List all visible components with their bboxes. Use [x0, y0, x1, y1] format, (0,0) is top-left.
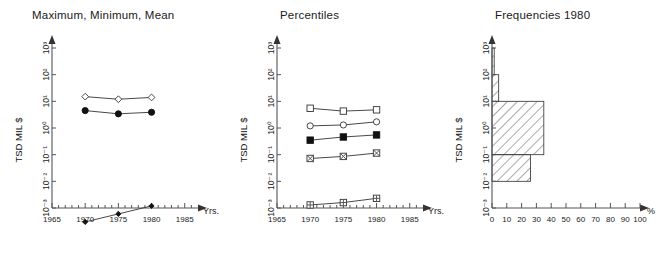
series-1: [82, 93, 155, 102]
x-axis-tick-label: 70: [591, 215, 600, 224]
y-axis-title: TSD MIL $: [453, 117, 464, 163]
y-axis-tick-label: 10³: [266, 42, 276, 54]
x-axis-tick-label: 1970: [301, 215, 319, 224]
series-1: [307, 105, 380, 114]
x-axis-tick-label: 1980: [368, 215, 386, 224]
x-axis-tick-label: 100: [633, 215, 647, 224]
data-point-marker: [82, 93, 89, 100]
series-4: [307, 150, 380, 162]
y-axis-title: TSD MIL $: [238, 117, 249, 163]
chart-svg-1: 10⁻³10⁻²10⁻¹10⁰10¹10²10³ 196519701975198…: [0, 0, 230, 259]
y-axis-tick-label: 10⁻²: [481, 173, 491, 190]
y-axis: 10⁻³10⁻²10⁻¹10⁰10¹10²10³: [266, 35, 281, 217]
series-3: [307, 132, 380, 144]
histogram-bar: [492, 155, 530, 182]
y-axis: 10⁻³10⁻²10⁻¹10⁰10¹10²10³: [41, 35, 56, 217]
x-axis-title: Yrs.: [203, 206, 219, 216]
x-axis-tick-label: 10: [502, 215, 511, 224]
histogram-bar: [492, 101, 544, 154]
data-point-marker: [115, 111, 121, 117]
y-axis-tick-label: 10⁻¹: [266, 146, 276, 163]
x-axis-tick-label: 50: [562, 215, 571, 224]
data-series-group: [307, 105, 380, 208]
x-axis-title: %: [647, 206, 655, 216]
y-axis-tick-label: 10⁻¹: [41, 146, 51, 163]
x-axis-tick-label: 1980: [143, 215, 161, 224]
x-axis-tick-label: 30: [532, 215, 541, 224]
series-2: [82, 107, 155, 116]
x-axis-tick-label: 1985: [176, 215, 194, 224]
y-axis-tick-label: 10⁻²: [266, 173, 276, 190]
data-point-marker: [373, 119, 379, 125]
y-axis-tick-label: 10²: [481, 68, 491, 80]
y-axis-tick-label: 10⁻²: [41, 173, 51, 190]
y-axis-tick-label: 10³: [481, 42, 491, 54]
x-axis-tick-label: 1975: [334, 215, 352, 224]
y-axis-tick-label: 10⁰: [41, 121, 51, 134]
x-axis: 0102030405060708090100: [490, 203, 649, 224]
x-axis-tick-label: 1985: [401, 215, 419, 224]
data-point-marker: [307, 105, 313, 111]
data-point-marker: [148, 109, 154, 115]
data-point-marker: [340, 134, 346, 140]
x-axis-tick-label: 40: [547, 215, 556, 224]
data-point-marker: [82, 107, 88, 113]
y-axis-tick-label: 10⁰: [266, 121, 276, 134]
x-axis-tick-label: 90: [621, 215, 630, 224]
data-point-marker: [373, 107, 379, 113]
x-axis-tick-label: 1965: [268, 215, 286, 224]
histogram-bar: [492, 75, 499, 102]
x-axis: 19651970197519801985: [43, 203, 207, 224]
histogram-bars-group: [492, 48, 544, 181]
chart-svg-2: 10⁻³10⁻²10⁻¹10⁰10¹10²10³ 196519701975198…: [225, 0, 455, 259]
y-axis-title: TSD MIL $: [13, 117, 24, 163]
data-point-marker: [373, 132, 379, 138]
data-point-marker: [340, 108, 346, 114]
figure-sheet: Maximum, Minimum, Mean 10⁻³10⁻²10⁻¹10⁰10…: [0, 0, 667, 259]
chart-svg-3: 10⁻³10⁻²10⁻¹10⁰10¹10²10³ 010203040506070…: [440, 0, 667, 259]
y-axis-tick-label: 10²: [41, 68, 51, 80]
chart-panel-percentiles: Percentiles 10⁻³10⁻²10⁻¹10⁰10¹10²10³ 196…: [225, 0, 455, 259]
data-point-marker: [307, 137, 313, 143]
y-axis-tick-label: 10³: [41, 42, 51, 54]
series-2: [307, 119, 380, 129]
y-axis-tick-label: 10⁻¹: [481, 146, 491, 163]
x-axis-tick-label: 60: [576, 215, 585, 224]
data-point-marker: [340, 122, 346, 128]
data-point-marker: [307, 123, 313, 129]
chart-panel-frequencies-1980: Frequencies 1980 10⁻³10⁻²10⁻¹10⁰10¹10²10…: [440, 0, 667, 259]
chart-panel-maximum-minimum-mean: Maximum, Minimum, Mean 10⁻³10⁻²10⁻¹10⁰10…: [0, 0, 230, 259]
data-point-marker: [148, 94, 155, 101]
x-axis-tick-label: 1965: [43, 215, 61, 224]
y-axis-tick-label: 10¹: [266, 95, 276, 107]
data-point-marker: [115, 96, 122, 103]
x-axis-tick-label: 20: [517, 215, 526, 224]
x-axis-tick-label: 80: [606, 215, 615, 224]
x-axis-tick-label: 0: [490, 215, 495, 224]
x-axis: 19651970197519801985: [268, 203, 432, 224]
y-axis-tick-label: 10¹: [41, 95, 51, 107]
y-axis-tick-label: 10²: [266, 68, 276, 80]
y-axis-tick-label: 10⁰: [481, 121, 491, 134]
y-axis-tick-label: 10¹: [481, 95, 491, 107]
